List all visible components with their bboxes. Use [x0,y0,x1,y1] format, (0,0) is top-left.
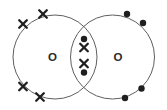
shared-electron-dot [81,36,87,42]
shared-electron-cross [80,44,88,52]
o2-dot-and-cross-diagram: O O [0,0,167,110]
atom-label-left: O [48,51,57,63]
outer-electron-dot [140,20,146,26]
atom-label-right: O [114,51,123,63]
electrons-layer [19,10,146,101]
outer-electron-cross [19,20,27,28]
diagram-canvas: O O [0,0,167,110]
outer-electron-dot [138,85,144,91]
outer-electron-dot [122,95,128,101]
outer-electron-dot [124,11,130,17]
shared-electron-cross [80,60,88,68]
shared-electron-dot [81,69,87,75]
atom-circles-layer [13,15,155,99]
